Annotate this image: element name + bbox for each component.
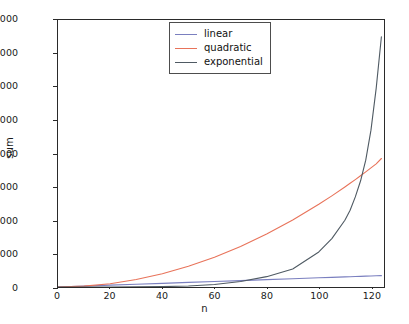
legend-label: linear — [204, 29, 232, 39]
x-tick-label: 0 — [32, 291, 82, 301]
legend-swatch-quadratic — [175, 48, 197, 49]
y-tick-label: 4000 — [0, 216, 18, 226]
x-tick-label: 100 — [294, 291, 344, 301]
x-tick-label: 80 — [242, 291, 292, 301]
y-tick-label: 16000 — [0, 14, 18, 24]
legend-label: quadratic — [204, 43, 252, 53]
legend-swatch-linear — [175, 34, 197, 35]
chart-legend: linearquadraticexponential — [169, 22, 271, 74]
y-tick-label: 0 — [0, 283, 18, 293]
x-axis-label: n — [0, 304, 409, 314]
y-tick-label: 12000 — [0, 81, 18, 91]
series-line-quadratic — [58, 159, 381, 287]
y-axis-label: sum — [5, 126, 15, 170]
series-line-exponential — [58, 37, 381, 287]
series-line-linear — [58, 276, 381, 287]
legend-label: exponential — [204, 57, 263, 67]
y-tick-label: 10000 — [0, 115, 18, 125]
legend-entry-exponential: exponential — [175, 55, 263, 69]
chart-figure: 0200040006000800010000120001400016000 02… — [0, 0, 409, 324]
legend-entry-quadratic: quadratic — [175, 41, 263, 55]
y-tick-label: 6000 — [0, 182, 18, 192]
legend-entry-linear: linear — [175, 27, 263, 41]
x-tick-label: 60 — [189, 291, 239, 301]
legend-swatch-exponential — [175, 62, 197, 63]
y-tick-label: 14000 — [0, 48, 18, 58]
x-tick-label: 120 — [347, 291, 397, 301]
x-tick-label: 20 — [84, 291, 134, 301]
x-tick-label: 40 — [137, 291, 187, 301]
y-tick-label: 2000 — [0, 249, 18, 259]
